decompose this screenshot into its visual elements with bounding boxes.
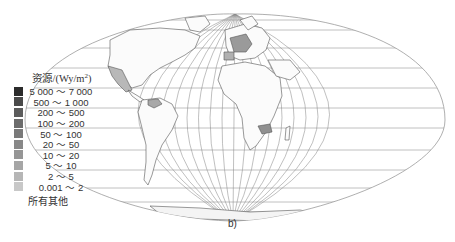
legend-swatch — [14, 150, 23, 159]
continents — [108, 16, 320, 221]
figure-caption: b) — [228, 218, 237, 229]
legend-swatch — [14, 140, 23, 149]
legend-swatch — [14, 87, 23, 96]
legend-swatch — [14, 172, 23, 181]
legend-swatch — [14, 119, 23, 128]
legend-swatch — [14, 161, 23, 170]
legend-other-label: 所有其他 — [28, 193, 112, 208]
iberia — [224, 52, 234, 60]
legend-title: 资源/(Wy/m2) — [12, 70, 112, 85]
legend-item: 0.001 ～ 2 — [2, 181, 112, 192]
greenland — [185, 16, 210, 32]
legend-swatch — [14, 97, 23, 106]
madagascar — [285, 126, 290, 140]
africa — [218, 62, 282, 150]
legend-swatch — [14, 108, 23, 117]
south-america — [138, 98, 178, 185]
legend-swatch — [14, 129, 23, 138]
legend: 资源/(Wy/m2) 5 000 ～ 7 000 500 ～ 1 000 200… — [2, 70, 112, 208]
legend-swatch — [14, 182, 23, 191]
